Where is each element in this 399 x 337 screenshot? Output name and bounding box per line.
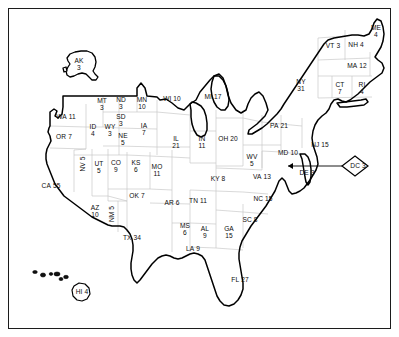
dc-diamond bbox=[342, 156, 368, 176]
hawaii-inset-outline bbox=[33, 271, 69, 281]
electoral-map-figure: AK3WA 11OR 7MT3ND3MN10WI 10SD3ID4WY3NE5I… bbox=[0, 0, 399, 337]
hawaii-big-island-outline bbox=[72, 283, 90, 301]
state-boundaries bbox=[50, 30, 372, 252]
dc-callout bbox=[288, 156, 368, 176]
us-map-graphic bbox=[0, 0, 399, 337]
alaska-inset-outline bbox=[63, 51, 98, 80]
dc-leader-arrowhead bbox=[288, 163, 293, 169]
national-outline bbox=[46, 19, 384, 306]
